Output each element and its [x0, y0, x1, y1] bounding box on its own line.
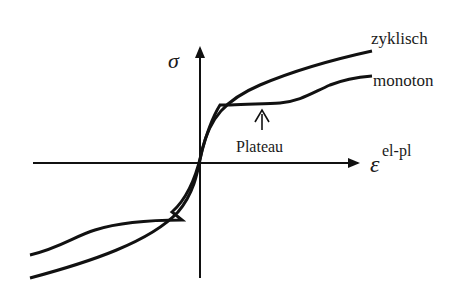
- label-zyklisch: zyklisch: [371, 29, 428, 48]
- label-monoton: monoton: [373, 71, 434, 90]
- x-axis-label: ε: [370, 151, 380, 177]
- stress-strain-diagram: σ ε el-pl zyklisch monoton Plateau: [0, 0, 467, 296]
- label-plateau: Plateau: [236, 138, 283, 155]
- y-axis-label: σ: [168, 48, 180, 73]
- x-axis-label-superscript: el-pl: [382, 142, 412, 160]
